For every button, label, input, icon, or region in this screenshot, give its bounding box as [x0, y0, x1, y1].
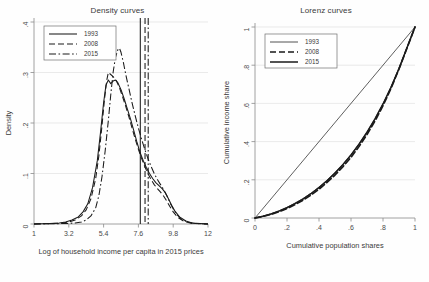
- density-legend-label-2015: 2015: [84, 50, 99, 57]
- lorenz-legend: [265, 34, 337, 68]
- density-y-tick-label: .3: [22, 72, 29, 78]
- lorenz-legend-label-2015: 2015: [305, 58, 320, 65]
- figure-root: Density curves 0.1.2.3.413.25.47.69.812D…: [0, 0, 429, 282]
- density-series-1993: [34, 80, 208, 224]
- density-series-2015: [34, 48, 208, 224]
- lorenz-x-tick-label: .8: [380, 224, 386, 231]
- lorenz-y-tick-label: 1: [243, 27, 250, 31]
- lorenz-y-tick-label: .6: [243, 103, 250, 109]
- density-x-tick-label: 9.8: [168, 230, 178, 237]
- lorenz-y-axis-label: Cumulative income share: [222, 81, 231, 164]
- density-x-tick-label: 12: [204, 230, 212, 237]
- density-y-tick-label: .2: [22, 122, 29, 128]
- density-legend-label-1993: 1993: [84, 30, 99, 37]
- lorenz-legend-label-2008: 2008: [305, 48, 320, 55]
- lorenz-x-axis-label: Cumulative population shares: [286, 241, 384, 250]
- lorenz-x-tick-label: 0: [253, 224, 257, 231]
- density-y-tick-label: .4: [22, 21, 29, 27]
- density-x-tick-label: 3.2: [64, 230, 74, 237]
- density-x-tick-label: 7.6: [134, 230, 144, 237]
- lorenz-y-tick-label: .8: [243, 65, 250, 71]
- density-y-axis-label: Density: [4, 110, 13, 135]
- lorenz-chart-panel: Lorenz curves 0.2.4.6.810.2.4.6.81Cumula…: [215, 0, 429, 282]
- lorenz-x-tick-label: .6: [348, 224, 354, 231]
- density-chart-title: Density curves: [0, 6, 225, 15]
- density-legend: [44, 26, 116, 60]
- density-legend-label-2008: 2008: [84, 40, 99, 47]
- density-chart-panel: Density curves 0.1.2.3.413.25.47.69.812D…: [0, 0, 215, 282]
- density-x-tick-label: 5.4: [99, 230, 109, 237]
- density-y-tick-label: 0: [22, 224, 29, 228]
- lorenz-chart-svg: 0.2.4.6.810.2.4.6.81Cumulative income sh…: [215, 0, 429, 282]
- lorenz-legend-label-1993: 1993: [305, 38, 320, 45]
- density-y-tick-label: .1: [22, 173, 29, 179]
- density-x-axis-label: Log of household income per capita in 20…: [38, 247, 203, 256]
- lorenz-y-tick-label: .4: [243, 141, 250, 147]
- lorenz-x-tick-label: .2: [284, 224, 290, 231]
- density-series-2008: [34, 73, 208, 225]
- density-chart-svg: 0.1.2.3.413.25.47.69.812DensityLog of ho…: [0, 0, 215, 282]
- density-x-tick-label: 1: [32, 230, 36, 237]
- lorenz-x-tick-label: .4: [316, 224, 322, 231]
- lorenz-y-tick-label: 0: [243, 218, 250, 222]
- lorenz-chart-title: Lorenz curves: [215, 6, 429, 15]
- lorenz-x-tick-label: 1: [413, 224, 417, 231]
- lorenz-y-tick-label: .2: [243, 179, 250, 185]
